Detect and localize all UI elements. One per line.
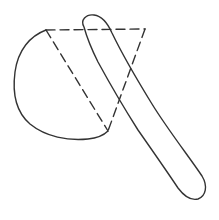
axe-sketch <box>0 0 219 220</box>
drawing-canvas <box>0 0 219 220</box>
blade-dashed-left-edge <box>46 30 108 131</box>
blade-dashed-top-edge <box>46 29 145 30</box>
blade-dashed-right-edge <box>108 29 145 131</box>
blade-arc <box>14 30 108 139</box>
axe-handle <box>83 15 206 200</box>
